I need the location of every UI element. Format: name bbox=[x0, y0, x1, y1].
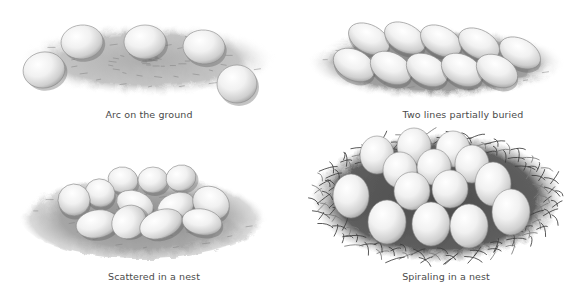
caption-arc-on-the-ground: Arc on the ground bbox=[105, 109, 192, 120]
panel-spiraling-in-a-nest bbox=[308, 128, 563, 267]
panel-two-lines-partially-buried bbox=[308, 15, 564, 99]
caption-spiraling-in-a-nest: Spiraling in a nest bbox=[402, 271, 490, 282]
panel-scattered-in-a-nest bbox=[19, 162, 267, 259]
caption-two-lines-partially-buried: Two lines partially buried bbox=[403, 109, 524, 120]
caption-scattered-in-a-nest: Scattered in a nest bbox=[108, 271, 200, 282]
panel-arc-on-the-ground bbox=[20, 23, 276, 106]
egg-arrangement-illustration bbox=[0, 0, 581, 288]
